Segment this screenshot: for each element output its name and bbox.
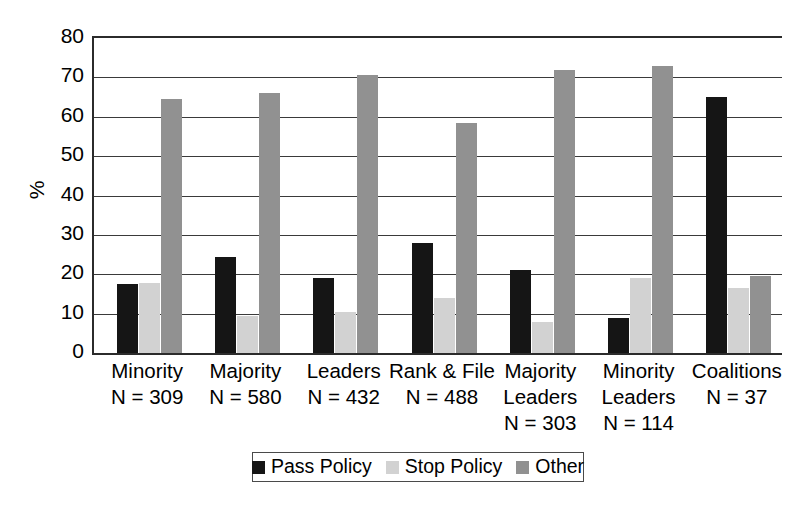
bar <box>652 66 673 353</box>
bar <box>630 278 651 353</box>
bar <box>357 75 378 353</box>
y-tick-10: 10 <box>22 301 84 322</box>
bar-group <box>412 38 477 353</box>
bar <box>161 99 182 353</box>
x-axis-category-labels: MinorityN = 309MajorityN = 580LeadersN =… <box>92 358 780 448</box>
legend-label: Pass Policy <box>271 457 372 477</box>
bar <box>510 270 531 353</box>
legend-swatch-icon <box>252 461 265 474</box>
legend-label: Other <box>535 457 584 477</box>
bar <box>434 298 455 353</box>
bar-group <box>510 38 575 353</box>
bar <box>750 276 771 353</box>
x-label-line: Coalitions <box>692 359 782 382</box>
y-tick-80: 80 <box>22 25 84 46</box>
bar <box>313 278 334 353</box>
bar <box>259 93 280 353</box>
y-tick-20: 20 <box>22 261 84 282</box>
legend-item: Pass Policy <box>252 457 372 477</box>
bar-group <box>117 38 182 353</box>
legend-swatch-icon <box>386 461 399 474</box>
bar-chart: % 80706050403020100 MinorityN = 309Major… <box>0 0 802 508</box>
bar <box>456 123 477 353</box>
legend-item: Other <box>516 457 584 477</box>
chart-legend: Pass PolicyStop PolicyOther <box>252 452 584 482</box>
bar <box>117 284 138 353</box>
bar <box>532 322 553 354</box>
bar <box>412 243 433 353</box>
bar-group <box>706 38 771 353</box>
legend-label: Stop Policy <box>405 457 503 477</box>
y-tick-60: 60 <box>22 104 84 125</box>
x-label-line: N = 37 <box>657 384 802 410</box>
bars-layer <box>94 38 782 353</box>
bar-group <box>215 38 280 353</box>
legend-item: Stop Policy <box>386 457 503 477</box>
bar <box>706 97 727 353</box>
bar-group <box>608 38 673 353</box>
bar <box>215 257 236 353</box>
y-tick-30: 30 <box>22 222 84 243</box>
bar <box>554 70 575 354</box>
x-label-line: N = 114 <box>559 410 719 436</box>
bar <box>728 288 749 353</box>
bar <box>139 283 160 353</box>
bar <box>335 312 356 353</box>
y-tick-40: 40 <box>22 183 84 204</box>
bar <box>608 318 629 353</box>
plot-area <box>92 36 782 355</box>
bar-group <box>313 38 378 353</box>
y-tick-70: 70 <box>22 64 84 85</box>
y-tick-50: 50 <box>22 143 84 164</box>
bar <box>237 316 258 353</box>
legend-swatch-icon <box>516 461 529 474</box>
y-axis-tick-labels: 80706050403020100 <box>14 36 84 351</box>
x-label: CoalitionsN = 37 <box>657 358 802 410</box>
